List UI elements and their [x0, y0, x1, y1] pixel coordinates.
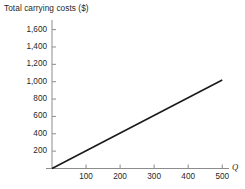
y-axis-tick-label: 1,400 [8, 42, 47, 52]
y-axis-tick-label: 1,000 [8, 77, 47, 87]
y-axis-tick-label: 400 [8, 129, 47, 139]
data-line-0 [52, 80, 222, 169]
x-axis-ticks [86, 165, 222, 169]
axes-group [46, 20, 229, 169]
chart-container: Total carrying costs ($) 2004006008001,0… [0, 0, 245, 189]
x-axis-label: Q [232, 162, 238, 172]
x-axis-tick-label: 500 [215, 172, 229, 182]
y-axis-tick-label: 600 [8, 111, 47, 121]
y-axis-ticks [52, 30, 56, 152]
x-axis-tick-label: 100 [79, 172, 93, 182]
x-axis-tick-label: 300 [147, 172, 161, 182]
y-axis-tick-label: 800 [8, 94, 47, 104]
x-axis-tick-label: 200 [113, 172, 127, 182]
x-axis-tick-label: 400 [181, 172, 195, 182]
y-axis-tick-label: 1,200 [8, 59, 47, 69]
y-axis-tick-label: 1,600 [8, 25, 47, 35]
y-axis-tick-label: 200 [8, 146, 47, 156]
data-series-group [52, 80, 222, 169]
